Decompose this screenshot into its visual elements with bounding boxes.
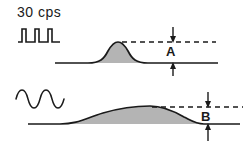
figure-canvas <box>0 0 245 146</box>
amplitude-label-b: B <box>201 109 210 124</box>
figure-container: 30 cps A B <box>0 0 245 146</box>
pulse-train-stimulus-icon <box>18 29 60 42</box>
frequency-label: 30 cps <box>17 4 61 20</box>
narrow-peak-response-curve <box>55 42 218 63</box>
amplitude-label-a: A <box>166 44 175 59</box>
sine-wave-stimulus-icon <box>16 90 64 108</box>
